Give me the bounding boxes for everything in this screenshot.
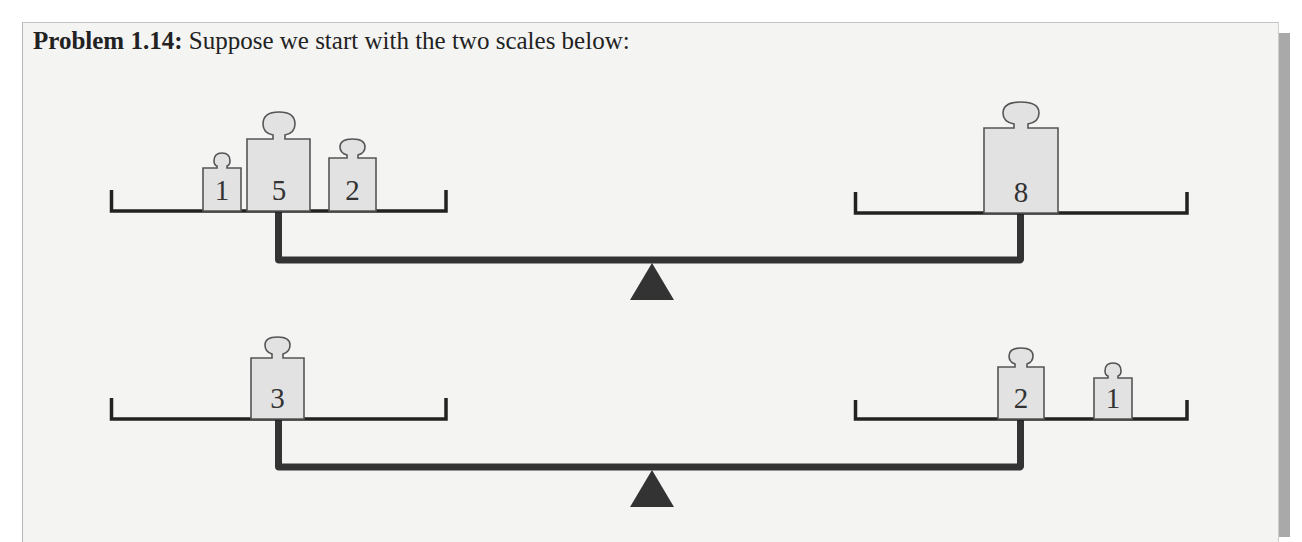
top-scale-beam — [279, 211, 1021, 260]
weight-label: 8 — [1014, 176, 1029, 208]
weight-label: 5 — [272, 174, 287, 206]
bottom-scale-fulcrum — [630, 470, 674, 507]
weight-label: 2 — [1014, 382, 1029, 414]
weight-8: 8 — [984, 102, 1058, 213]
weight-3: 3 — [251, 337, 304, 419]
weight-label: 1 — [215, 174, 230, 206]
top-scale-fulcrum — [630, 263, 674, 300]
weight-label: 3 — [270, 382, 285, 414]
weight-1: 1 — [203, 153, 241, 211]
weight-1: 1 — [1094, 363, 1132, 419]
weight-2: 2 — [998, 348, 1044, 419]
weight-2: 2 — [329, 139, 376, 211]
weight-label: 1 — [1106, 382, 1121, 414]
weight-label: 2 — [345, 174, 360, 206]
bottom-scale-beam — [279, 419, 1021, 467]
weight-5: 5 — [247, 112, 310, 211]
bottom-scale: 3 2 1 — [112, 337, 1188, 507]
top-scale: 1 5 2 8 — [112, 102, 1188, 300]
